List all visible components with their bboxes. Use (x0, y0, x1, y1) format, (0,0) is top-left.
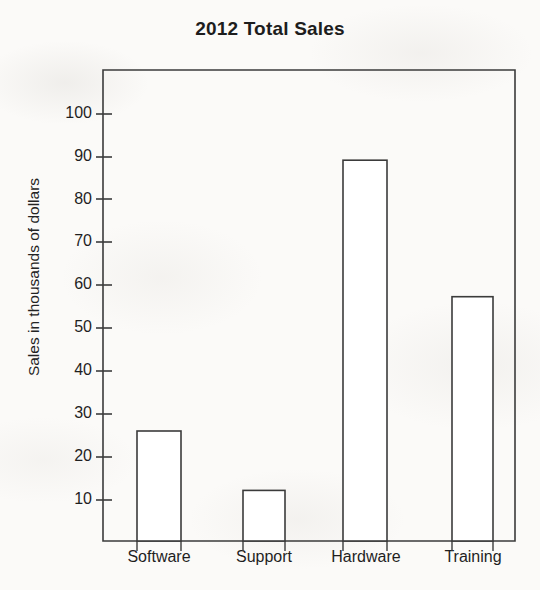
bar-hardware[interactable] (343, 160, 387, 541)
bars-group (137, 160, 493, 541)
x-axis-ticks (137, 541, 493, 551)
bar-training[interactable] (452, 297, 493, 541)
bar-software[interactable] (137, 431, 181, 541)
y-axis-ticks (96, 114, 112, 500)
chart-page: 2012 Total Sales Sales in thousands of d… (0, 0, 540, 590)
bar-support[interactable] (243, 490, 285, 541)
bar-chart-plot (0, 0, 540, 590)
